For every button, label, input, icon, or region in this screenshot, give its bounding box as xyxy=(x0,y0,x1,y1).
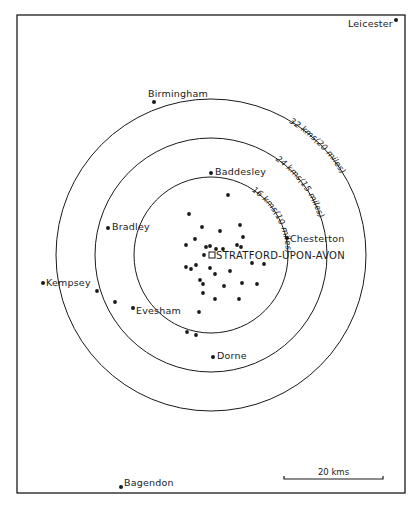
site-dot xyxy=(255,282,259,286)
place-birmingham: Birmingham xyxy=(148,88,208,104)
site-dot xyxy=(184,265,188,269)
place-chesterton: Chesterton xyxy=(285,233,344,244)
center-marker: STRATFORD-UPON-AVON xyxy=(209,250,345,261)
site-dot xyxy=(239,245,243,249)
place-dot-icon xyxy=(119,485,123,489)
site-dot xyxy=(201,282,205,286)
scale-bar-label: 20 kms xyxy=(318,467,350,477)
site-dot xyxy=(194,263,198,267)
place-dot-icon xyxy=(211,355,215,359)
place-dot-icon xyxy=(285,236,289,240)
place-label: Birmingham xyxy=(148,88,208,99)
site-dot xyxy=(187,212,191,216)
site-dot xyxy=(200,225,204,229)
site-dot xyxy=(194,333,198,337)
place-dot-icon xyxy=(106,226,110,230)
place-baddesley: Baddesley xyxy=(209,166,266,177)
place-label: Bradley xyxy=(112,221,150,232)
place-label: Baddesley xyxy=(215,166,266,177)
site-dot xyxy=(213,297,217,301)
site-dot xyxy=(240,281,244,285)
center-square-icon xyxy=(209,252,215,258)
site-dot xyxy=(95,289,99,293)
place-kempsey: Kempsey xyxy=(41,277,91,288)
place-evesham: Evesham xyxy=(131,305,181,316)
distribution-map: 16 kms(10 miles)24 kms(15 miles)32 kms(2… xyxy=(0,0,417,508)
place-dot-icon xyxy=(41,281,45,285)
place-bradley: Bradley xyxy=(106,221,150,232)
distance-ring-label: 24 kms(15 miles) xyxy=(274,153,327,219)
place-label: Dorne xyxy=(217,350,247,361)
site-dot xyxy=(193,237,197,241)
place-label: Bagendon xyxy=(124,477,174,488)
site-dot xyxy=(238,223,242,227)
place-dot-icon xyxy=(394,18,398,22)
site-dot xyxy=(208,266,212,270)
site-dot xyxy=(213,272,217,276)
place-label: Kempsey xyxy=(46,277,91,288)
site-dot xyxy=(250,261,254,265)
place-leicester: Leicester xyxy=(348,18,398,29)
site-dot xyxy=(262,262,266,266)
site-dot xyxy=(222,284,226,288)
site-dot xyxy=(208,244,212,248)
place-dorne: Dorne xyxy=(211,350,247,361)
site-dot xyxy=(185,330,189,334)
site-dot xyxy=(235,243,239,247)
site-dot xyxy=(204,245,208,249)
place-dot-icon xyxy=(209,171,213,175)
place-dot-icon xyxy=(152,100,156,104)
place-dot-icon xyxy=(131,306,135,310)
center-label: STRATFORD-UPON-AVON xyxy=(216,250,345,261)
site-dot xyxy=(198,278,202,282)
site-dot xyxy=(201,291,205,295)
site-dot xyxy=(241,235,245,239)
scale-bar: 20 kms xyxy=(284,467,383,479)
site-dot xyxy=(226,193,230,197)
site-dot xyxy=(228,269,232,273)
site-dot xyxy=(113,300,117,304)
site-dot xyxy=(189,267,193,271)
site-dot xyxy=(202,253,206,257)
distance-ring-label: 16 kms(10 miles) xyxy=(250,184,294,253)
site-dot xyxy=(218,229,222,233)
site-dot xyxy=(237,297,241,301)
site-dot xyxy=(184,243,188,247)
place-label: Evesham xyxy=(136,305,181,316)
place-bagendon: Bagendon xyxy=(119,477,174,489)
place-label: Leicester xyxy=(348,18,393,29)
place-label: Chesterton xyxy=(290,233,344,244)
site-dot xyxy=(197,310,201,314)
